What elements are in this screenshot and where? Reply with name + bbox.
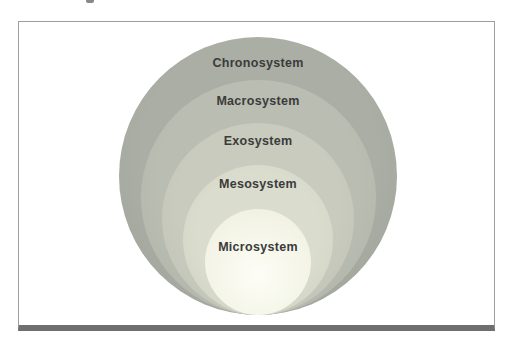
microsystem-label: Microsystem [18, 241, 498, 254]
microsystem-circle [205, 209, 311, 315]
mesosystem-label: Mesosystem [18, 178, 498, 191]
figure-canvas: Chronosystem Macrosystem Exosystem Mesos… [0, 0, 509, 347]
scan-artifact-mark [86, 0, 94, 3]
macrosystem-label: Macrosystem [18, 95, 498, 108]
exosystem-label: Exosystem [18, 135, 498, 148]
chronosystem-label: Chronosystem [18, 57, 498, 70]
